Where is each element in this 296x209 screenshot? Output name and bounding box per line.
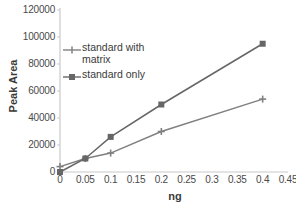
- data-point-marker-square: [82, 156, 88, 162]
- chart-container: 020000400006000080000100000120000 Peak A…: [0, 0, 296, 209]
- x-tick-label: 0.1: [104, 174, 117, 185]
- x-tick-label: 0.25: [177, 174, 196, 185]
- legend-marker-square-icon: [62, 69, 82, 81]
- x-tick-label: 0.2: [155, 174, 168, 185]
- x-tick-label: 0.45: [279, 174, 296, 185]
- x-tick-label: 0.4: [256, 174, 269, 185]
- x-axis-tick-labels: 00.050.10.150.20.250.30.350.40.45: [0, 174, 296, 188]
- legend-label: standard with matrix: [82, 41, 144, 65]
- x-tick-label: 0.3: [205, 174, 218, 185]
- data-point-marker-square: [158, 102, 164, 108]
- x-tick-label: 0.05: [76, 174, 95, 185]
- x-tick-label: 0: [57, 174, 62, 185]
- legend-marker-plus-icon: [62, 42, 82, 54]
- data-point-marker-plus: [158, 128, 165, 135]
- chart-legend: standard with matrixstandard only: [62, 41, 192, 84]
- legend-item-0: standard with matrix: [62, 41, 192, 65]
- data-point-marker-square: [108, 134, 114, 140]
- legend-item-1: standard only: [62, 68, 192, 81]
- data-point-marker-square: [260, 41, 266, 47]
- x-axis-title: ng: [60, 190, 290, 202]
- data-point-marker-plus: [259, 96, 266, 103]
- legend-label: standard only: [82, 68, 145, 80]
- x-tick-label: 0.35: [228, 174, 247, 185]
- x-tick-label: 0.15: [127, 174, 146, 185]
- data-point-marker-plus: [107, 150, 114, 157]
